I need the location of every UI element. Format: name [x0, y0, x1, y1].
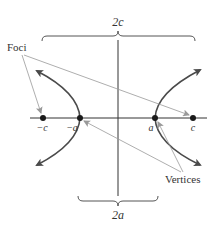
bottom-brace-label: 2a — [112, 208, 124, 222]
focus-left-point — [40, 115, 46, 121]
foci-leader-right — [24, 55, 189, 115]
bottom-brace — [78, 196, 158, 206]
label-neg-c: −c — [36, 122, 48, 133]
foci-leader-left — [22, 55, 41, 113]
vertices-leader-left — [84, 121, 181, 172]
left-branch-upper — [37, 71, 80, 118]
vertices-label: Vertices — [165, 173, 200, 185]
label-neg-a: −a — [66, 122, 78, 133]
hyperbola-diagram: 2c 2a −c −a a c Foci Vertices — [0, 0, 215, 228]
top-brace — [42, 31, 195, 41]
vertex-right-point — [152, 115, 158, 121]
vertex-left-point — [77, 115, 83, 121]
label-pos-a: a — [149, 122, 154, 133]
top-brace-label: 2c — [112, 15, 124, 29]
vertices-leader-right — [158, 122, 183, 172]
focus-right-point — [190, 115, 196, 121]
label-pos-c: c — [191, 122, 196, 133]
foci-label: Foci — [7, 41, 27, 53]
